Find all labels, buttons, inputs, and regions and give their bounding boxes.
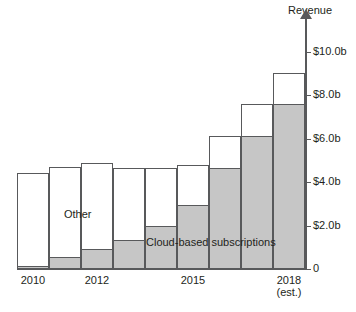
y-axis-tick-label: $4.0b bbox=[313, 176, 341, 187]
x-axis-tick-label-year: 2015 bbox=[181, 274, 205, 286]
bar-2014 bbox=[145, 30, 177, 269]
bar-segment-cloud-based-subscriptions bbox=[49, 257, 81, 269]
y-axis-tick-label: 0 bbox=[313, 263, 319, 274]
y-axis-tick bbox=[305, 139, 311, 140]
x-axis-tick-label-note: (est.) bbox=[263, 286, 315, 299]
bar-segment-cloud-based-subscriptions bbox=[241, 136, 273, 269]
bar-group bbox=[17, 30, 305, 269]
x-axis-tick-label-2010: 2010 bbox=[7, 274, 59, 286]
bar-segment-cloud-based-subscriptions bbox=[273, 104, 305, 269]
y-axis-tick-label: $8.0b bbox=[313, 89, 341, 100]
bar-2015 bbox=[177, 30, 209, 269]
bar-segment-cloud-based-subscriptions bbox=[209, 168, 241, 269]
x-axis-tick-label-year: 2018 bbox=[277, 274, 301, 286]
y-axis-tick-label: $6.0b bbox=[313, 133, 341, 144]
x-axis-tick-label-2015: 2015 bbox=[167, 274, 219, 286]
y-axis-tick bbox=[305, 269, 311, 270]
y-axis-tick bbox=[305, 182, 311, 183]
bar-2012 bbox=[81, 30, 113, 269]
bar-2016 bbox=[209, 30, 241, 269]
series-annotation-other: Other bbox=[64, 208, 92, 220]
bar-2013 bbox=[113, 30, 145, 269]
bar-2017 bbox=[241, 30, 273, 269]
plot-area bbox=[17, 30, 305, 269]
bar-2010 bbox=[17, 30, 49, 269]
revenue-stacked-bar-chart: Revenue 0$2.0b$4.0b$6.0b$8.0b$10.0b 2010… bbox=[0, 0, 356, 312]
bar-segment-cloud-based-subscriptions bbox=[17, 266, 49, 269]
bar-segment-cloud-based-subscriptions bbox=[113, 240, 145, 269]
series-annotation-cloud-based-subscriptions: Cloud-based subscriptions bbox=[146, 236, 276, 248]
y-axis-line bbox=[305, 18, 307, 269]
bar-2011 bbox=[49, 30, 81, 269]
y-axis-tick bbox=[305, 95, 311, 96]
y-axis-tick-label: $2.0b bbox=[313, 220, 341, 231]
x-axis-tick-label-year: 2012 bbox=[85, 274, 109, 286]
x-axis-tick-label-year: 2010 bbox=[21, 274, 45, 286]
y-axis-tick bbox=[305, 226, 311, 227]
x-axis-tick-label-2012: 2012 bbox=[71, 274, 123, 286]
bar-segment-cloud-based-subscriptions bbox=[81, 249, 113, 269]
bar-segment-other bbox=[17, 173, 49, 269]
bar-2018 bbox=[273, 30, 305, 269]
y-axis-tick-label: $10.0b bbox=[313, 46, 347, 57]
y-axis-tick bbox=[305, 52, 311, 53]
x-axis-tick-label-2018: 2018(est.) bbox=[263, 274, 315, 299]
